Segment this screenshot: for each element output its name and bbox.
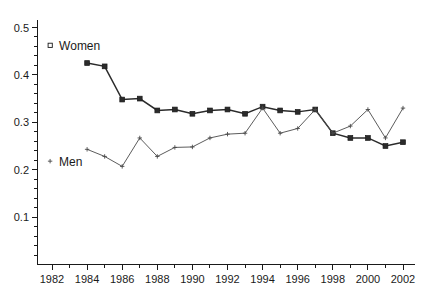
data-point-women [366, 136, 371, 141]
legend-label-men: Men [59, 155, 82, 169]
data-point-women [295, 109, 300, 114]
x-tick-label: 1984 [75, 273, 99, 285]
data-point-women [120, 97, 125, 102]
line-chart: 0.10.20.30.40.5 198219841986198819901992… [0, 0, 428, 300]
x-tick-label: 2000 [356, 273, 380, 285]
legend-marker-women [48, 43, 52, 47]
data-point-women [278, 108, 283, 113]
data-point-women [85, 61, 90, 66]
y-tick-label: 0.4 [14, 69, 29, 81]
x-tick-label: 1986 [110, 273, 134, 285]
x-tick-label: 1988 [145, 273, 169, 285]
data-point-women [208, 108, 213, 113]
x-tick-label: 1996 [285, 273, 309, 285]
data-point-women [137, 96, 142, 101]
legend-label-women: Women [59, 39, 100, 53]
y-tick-label: 0.1 [14, 211, 29, 223]
data-point-women [102, 64, 107, 69]
data-point-women [401, 140, 406, 145]
y-tick-label: 0.3 [14, 116, 29, 128]
x-tick-label: 1982 [40, 273, 64, 285]
data-point-women [155, 108, 160, 113]
data-point-women [172, 107, 177, 112]
x-tick-label: 1990 [180, 273, 204, 285]
x-tick-label: 2002 [391, 273, 415, 285]
data-point-women [348, 136, 353, 141]
y-tick-label: 0.5 [14, 22, 29, 34]
chart-container: 0.10.20.30.40.5 198219841986198819901992… [0, 0, 428, 300]
data-point-women [190, 111, 195, 116]
data-point-women [243, 111, 248, 116]
y-tick-label: 0.2 [14, 164, 29, 176]
x-tick-label: 1994 [250, 273, 274, 285]
data-point-women [383, 144, 388, 149]
x-tick-label: 1998 [321, 273, 345, 285]
data-point-women [225, 107, 230, 112]
x-tick-label: 1992 [215, 273, 239, 285]
